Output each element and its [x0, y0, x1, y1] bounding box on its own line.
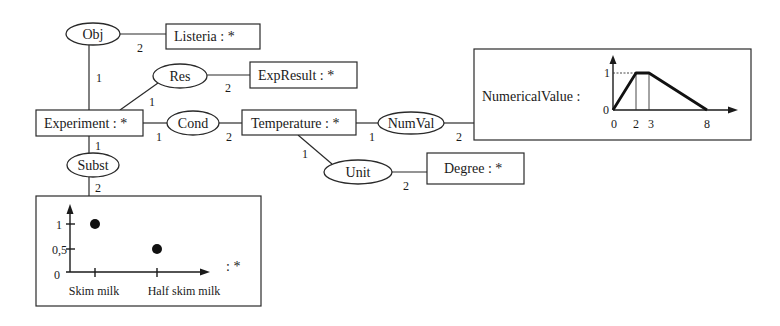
conceptual-graph-diagram: 2 1 1 2 1 2 1 2 1 2 1 2 Listeria : * Exp… [0, 0, 780, 326]
concept-numerical-value: NumericalValue : 1 0 0 2 3 8 [474, 49, 751, 140]
y-tick-label: 0 [603, 103, 609, 117]
x-tick-label: 0 [611, 117, 617, 131]
relation-numval: NumVal [378, 112, 444, 134]
arc-label: 1 [149, 95, 155, 109]
concept-label: Degree : * [444, 161, 502, 176]
x-tick-label: 8 [704, 117, 710, 131]
concept-label: NumericalValue : [482, 89, 580, 104]
concept-temperature: Temperature : * [242, 110, 356, 135]
concept-label: Experiment : * [44, 116, 127, 131]
arc-label: 1 [96, 71, 102, 85]
relation-label: Subst [77, 158, 108, 173]
arc-label: 1 [95, 139, 101, 153]
concept-referent: : * [226, 259, 240, 274]
concept-exp-result: ExpResult : * [250, 62, 357, 88]
data-point-half-skim-milk [152, 244, 162, 254]
x-tick-label: Half skim milk [148, 284, 221, 298]
relation-res: Res [153, 64, 207, 88]
y-tick-label: 1 [56, 218, 62, 232]
relation-label: Obj [83, 27, 104, 42]
relation-unit: Unit [324, 160, 392, 184]
concept-experiment: Experiment : * [36, 110, 143, 136]
x-tick-label: 3 [648, 117, 654, 131]
concept-label: ExpResult : * [258, 68, 334, 83]
y-tick-label: 1 [604, 66, 610, 80]
arc-label: 2 [137, 41, 143, 55]
relation-subst: Subst [67, 153, 119, 177]
concept-listeria: Listeria : * [166, 24, 260, 49]
y-tick-label: 0,5 [52, 243, 67, 257]
x-tick-label: 2 [633, 117, 639, 131]
x-tick-label: Skim milk [69, 284, 119, 298]
arc-label: 2 [226, 130, 232, 144]
arc-label: 1 [369, 130, 375, 144]
arc-label: 2 [403, 179, 409, 193]
concept-label: Listeria : * [174, 29, 235, 44]
concept-label: Temperature : * [251, 116, 339, 131]
relation-label: Cond [178, 116, 208, 131]
relation-label: Res [170, 69, 191, 84]
relation-obj: Obj [66, 23, 120, 45]
relation-cond: Cond [167, 111, 219, 135]
relation-label: NumVal [388, 116, 435, 131]
arc-label: 1 [302, 147, 308, 161]
relation-label: Unit [346, 165, 371, 180]
arc-label: 2 [225, 81, 231, 95]
y-tick-label: 0 [54, 268, 60, 282]
data-point-skim-milk [90, 219, 100, 229]
arc-label: 1 [156, 130, 162, 144]
arc-label: 2 [456, 130, 462, 144]
concept-degree: Degree : * [427, 153, 524, 184]
concept-substance: 1 0,5 0 Skim milk Half skim milk : * [36, 196, 261, 306]
arc-label: 2 [95, 181, 101, 195]
